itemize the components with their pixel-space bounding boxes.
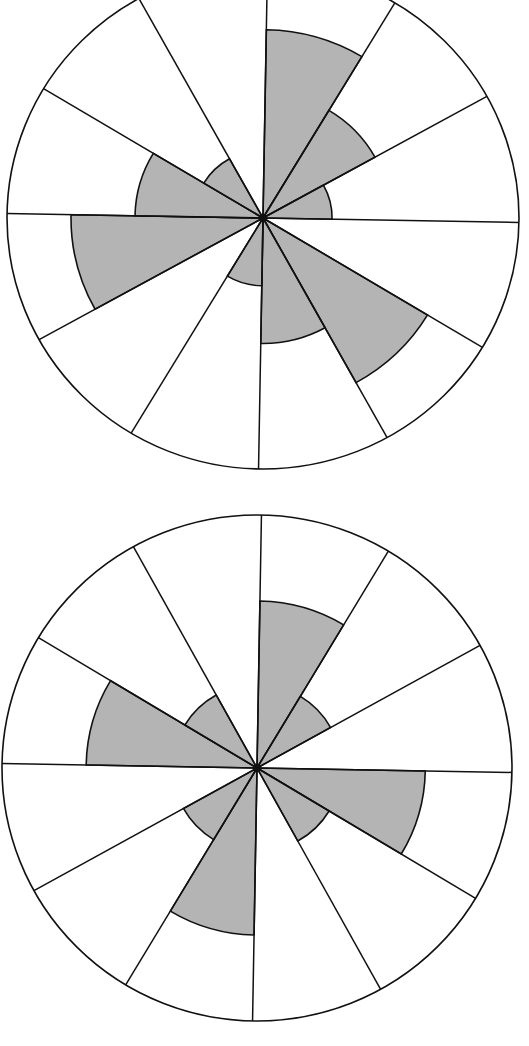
lower-rose-diagram [0,0,529,1046]
lower-rose-diagram-canvas [0,0,529,1046]
center-point [253,764,261,772]
